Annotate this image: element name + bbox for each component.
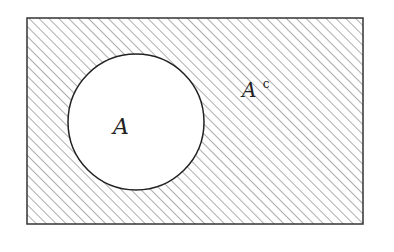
set-a-circle — [68, 54, 204, 190]
complement-base: A — [240, 78, 256, 102]
venn-diagram: A A c — [0, 0, 394, 252]
set-a-label: A — [111, 114, 129, 139]
complement-superscript: c — [263, 77, 270, 91]
